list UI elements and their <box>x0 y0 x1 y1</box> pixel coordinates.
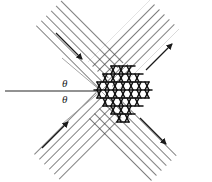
figure-canvas <box>0 0 212 182</box>
theta-label-lower: θ <box>62 94 67 105</box>
theta-label-upper: θ <box>62 78 67 89</box>
scattering-figure: θ θ <box>0 0 212 182</box>
